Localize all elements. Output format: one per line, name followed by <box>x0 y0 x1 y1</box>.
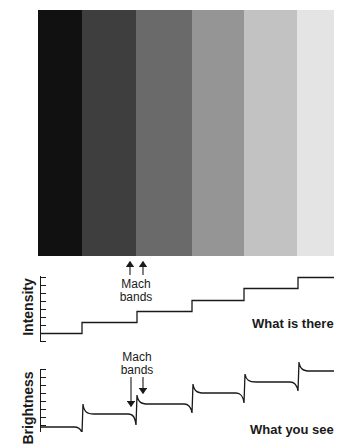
brightness-axis <box>40 369 46 432</box>
intensity-axis-label: Intensity <box>20 272 36 342</box>
intensity-axis <box>40 276 46 342</box>
up-arrow-icon <box>130 264 143 275</box>
upper-mach-label-line2: bands <box>111 291 161 304</box>
lower-mach-bands-label: Mach bands <box>112 351 162 377</box>
what-you-see-caption: What you see <box>250 422 334 437</box>
lower-mach-label-line2: bands <box>112 364 162 377</box>
brightness-axis-label: Brightness <box>20 363 36 448</box>
what-is-there-caption: What is there <box>252 316 334 331</box>
upper-mach-bands-label: Mach bands <box>111 278 161 304</box>
